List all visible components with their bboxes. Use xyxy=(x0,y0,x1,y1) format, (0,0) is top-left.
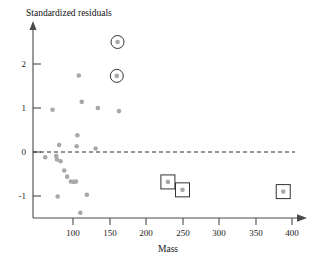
y-axis-ticks xyxy=(33,64,41,196)
x-tick-label-400: 400 xyxy=(285,228,299,238)
data-point xyxy=(74,144,79,149)
scatter-marker xyxy=(78,210,83,215)
x-tick-label-200: 200 xyxy=(139,228,153,238)
scatter-marker xyxy=(65,174,70,179)
y-axis-title: Standardized residuals xyxy=(26,8,112,18)
data-points-layer xyxy=(43,36,290,216)
x-tick-label-300: 300 xyxy=(212,228,226,238)
scatter-marker xyxy=(115,74,120,79)
scatter-marker xyxy=(85,192,90,197)
data-point xyxy=(110,69,123,82)
x-axis-ticks xyxy=(73,218,292,225)
y-axis-tick-labels: 2 1 0 -1 xyxy=(19,59,27,201)
scatter-marker xyxy=(57,143,62,148)
data-point xyxy=(111,36,124,49)
x-tick-label-100: 100 xyxy=(66,228,80,238)
x-axis-group xyxy=(33,214,307,222)
data-point xyxy=(58,159,63,164)
y-axis-group xyxy=(30,21,37,218)
scatter-marker xyxy=(43,155,48,160)
data-point xyxy=(65,174,70,179)
y-tick-label-1: 1 xyxy=(22,103,27,113)
scatter-marker xyxy=(166,180,171,185)
x-axis-tick-labels: 100 150 200 250 300 350 400 xyxy=(66,228,299,238)
scatter-marker xyxy=(115,40,120,45)
scatter-marker xyxy=(50,107,55,112)
data-point xyxy=(85,192,90,197)
data-point xyxy=(161,175,175,189)
scatter-marker xyxy=(96,106,101,111)
y-tick-label-2: 2 xyxy=(22,59,27,69)
data-point xyxy=(75,133,80,138)
data-point xyxy=(50,107,55,112)
data-point xyxy=(62,168,67,173)
data-point xyxy=(79,100,84,105)
data-point xyxy=(93,146,98,151)
scatter-marker xyxy=(74,144,79,149)
scatter-marker xyxy=(281,189,286,194)
data-point xyxy=(57,143,62,148)
scatter-marker xyxy=(79,100,84,105)
data-point xyxy=(74,179,79,184)
x-tick-label-250: 250 xyxy=(176,228,190,238)
scatter-marker xyxy=(62,168,67,173)
scatter-marker xyxy=(74,179,79,184)
scatter-marker xyxy=(93,146,98,151)
x-axis-arrowhead xyxy=(297,214,307,222)
scatter-marker xyxy=(58,159,63,164)
scatter-marker xyxy=(77,73,82,78)
data-point xyxy=(117,109,122,114)
data-point xyxy=(77,73,82,78)
x-axis-title: Mass xyxy=(158,244,178,254)
y-axis-arrowhead xyxy=(30,21,37,30)
data-point xyxy=(78,210,83,215)
scatter-marker xyxy=(117,109,122,114)
data-point xyxy=(276,185,290,199)
data-point xyxy=(96,106,101,111)
y-tick-label-minus-1: -1 xyxy=(19,191,27,201)
y-tick-label-0: 0 xyxy=(22,147,27,157)
x-tick-label-150: 150 xyxy=(103,228,117,238)
data-point xyxy=(55,194,60,199)
scatter-marker xyxy=(55,194,60,199)
data-point xyxy=(43,155,48,160)
data-point xyxy=(176,183,190,197)
residual-scatter-plot-figure: 2 1 0 -1 100 150 200 250 300 350 400 Sta… xyxy=(0,0,325,260)
scatter-marker xyxy=(180,188,185,193)
x-tick-label-350: 350 xyxy=(249,228,263,238)
scatter-marker xyxy=(75,133,80,138)
chart-canvas: 2 1 0 -1 100 150 200 250 300 350 400 Sta… xyxy=(0,0,325,260)
